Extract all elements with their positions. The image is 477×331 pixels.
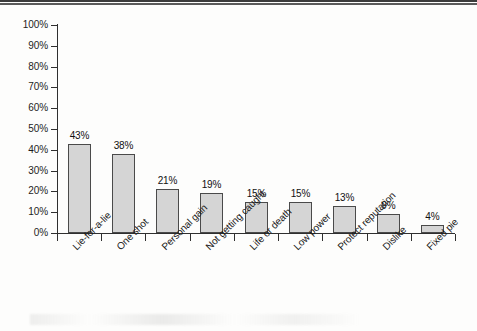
y-axis-tick	[51, 25, 57, 26]
y-axis-tick	[51, 171, 57, 172]
x-axis-tick	[145, 234, 146, 241]
y-axis-tick-label: 100%	[6, 20, 48, 30]
y-axis-tick	[51, 129, 57, 130]
y-axis-tick	[51, 46, 57, 47]
bar-value-label: 38%	[101, 141, 146, 151]
x-axis-tick	[190, 234, 191, 241]
x-axis-tick	[455, 234, 456, 241]
bar-value-label: 13%	[322, 193, 367, 203]
y-axis-tick	[51, 191, 57, 192]
x-axis-tick	[411, 234, 412, 241]
bar-value-label: 19%	[189, 180, 234, 190]
y-axis-tick-label: 40%	[6, 145, 48, 155]
x-axis-tick	[278, 234, 279, 241]
y-axis-tick	[51, 67, 57, 68]
y-axis-tick-label: 60%	[6, 103, 48, 113]
bar-value-label: 15%	[278, 189, 323, 199]
x-axis-tick	[101, 234, 102, 241]
y-axis-tick-label: 90%	[6, 41, 48, 51]
y-axis-tick-label: 20%	[6, 186, 48, 196]
bar-chart: 0%10%20%30%40%50%60%70%80%90%100% 43%38%…	[0, 0, 477, 331]
scan-artifact	[30, 314, 360, 325]
y-axis-tick-label: 80%	[6, 62, 48, 72]
y-axis-line	[57, 24, 58, 234]
y-axis-tick-label: 70%	[6, 82, 48, 92]
bar	[112, 154, 135, 233]
x-axis-tick	[57, 234, 58, 241]
x-axis-tick	[322, 234, 323, 241]
y-axis-tick	[51, 87, 57, 88]
y-axis-tick-label: 10%	[6, 207, 48, 217]
y-axis-tick-label: 0%	[6, 228, 48, 238]
bar-value-label: 21%	[145, 176, 190, 186]
x-axis-tick	[234, 234, 235, 241]
y-axis-tick	[51, 150, 57, 151]
y-axis-tick	[51, 108, 57, 109]
y-axis-tick-label: 50%	[6, 124, 48, 134]
y-axis-tick	[51, 212, 57, 213]
scanned-page: 0%10%20%30%40%50%60%70%80%90%100% 43%38%…	[0, 0, 477, 331]
bar-value-label: 43%	[57, 131, 102, 141]
y-axis-tick-label: 30%	[6, 166, 48, 176]
x-axis-tick	[367, 234, 368, 241]
bar	[68, 144, 91, 233]
